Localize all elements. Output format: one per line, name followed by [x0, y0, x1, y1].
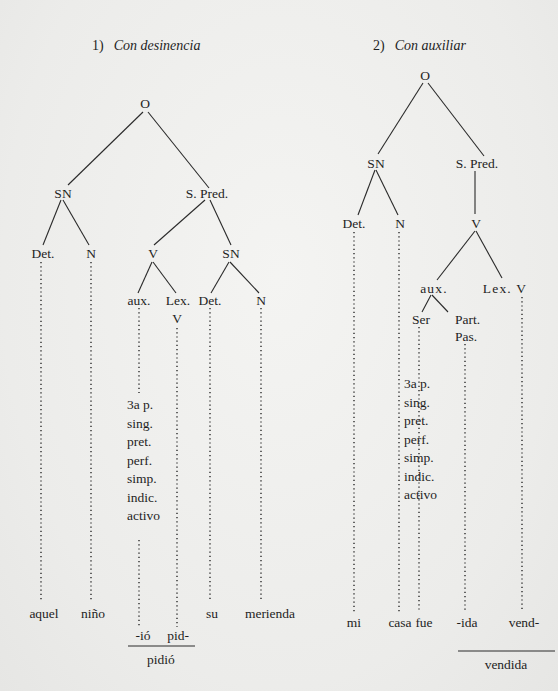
- diagram-page: 1)Con desinencia O SN S. Pred. Det. N V …: [0, 0, 558, 691]
- feature-form: simp.: [127, 470, 160, 489]
- tree1-node-lex-v: V: [172, 312, 182, 326]
- tree2-node-part: Part.: [455, 313, 480, 327]
- feature-mood: indic.: [127, 489, 160, 508]
- tree2-terminal-n: casa: [388, 616, 411, 630]
- feature-person: 3a p.: [404, 375, 437, 394]
- feature-number: sing.: [127, 415, 160, 434]
- tree2-node-sn: SN: [367, 157, 384, 171]
- feature-aspect: perf.: [127, 452, 160, 471]
- tree2-node-pas: Pas.: [455, 330, 477, 344]
- feature-tense: pret.: [404, 412, 437, 431]
- tree1-terminal-n2: merienda: [245, 607, 295, 621]
- tree1-node-lex: Lex.: [166, 294, 190, 308]
- tree1-node-aux: aux.: [128, 294, 151, 308]
- tree2-title-text: Con auxiliar: [395, 38, 466, 53]
- tree2-node-aux: aux.: [420, 282, 448, 296]
- tree2-number: 2): [373, 38, 385, 53]
- tree2-node-n: N: [395, 217, 405, 231]
- tree2-terminal-suffix: -ida: [457, 616, 478, 630]
- tree2-terminal-combined: vendida: [485, 658, 528, 672]
- tree2-node-lex-v: Lex. V: [483, 282, 527, 296]
- feature-form: simp.: [404, 449, 437, 468]
- tree1-number: 1): [92, 38, 104, 53]
- tree1-title-text: Con desinencia: [114, 38, 201, 53]
- tree1-node-v: V: [148, 247, 158, 261]
- tree1-features: 3a p. sing. pret. perf. simp. indic. act…: [127, 396, 160, 526]
- tree1-node-root: O: [140, 97, 150, 111]
- tree1-terminal-stem: pid-: [167, 629, 189, 643]
- feature-person: 3a p.: [127, 396, 160, 415]
- tree1-terminal-det2: su: [206, 607, 218, 621]
- feature-voice: activo: [404, 486, 437, 505]
- tree2-node-det: Det.: [343, 217, 366, 231]
- feature-mood: indic.: [404, 468, 437, 487]
- feature-tense: pret.: [127, 433, 160, 452]
- tree1-terminal-det: aquel: [29, 607, 58, 621]
- tree2-node-ser: Ser: [412, 313, 430, 327]
- tree1-node-n: N: [86, 247, 96, 261]
- tree-edges: [0, 0, 558, 691]
- tree1-terminal-combined: pidió: [147, 653, 175, 667]
- feature-number: sing.: [404, 394, 437, 413]
- feature-voice: activo: [127, 507, 160, 526]
- tree2-node-root: O: [420, 69, 430, 83]
- tree2-terminal-stem: vend-: [509, 616, 540, 630]
- tree2-features: 3a p. sing. pret. perf. simp. indic. act…: [404, 375, 437, 505]
- tree1-title: 1)Con desinencia: [92, 38, 200, 54]
- feature-aspect: perf.: [404, 431, 437, 450]
- tree1-node-det2: Det.: [199, 294, 222, 308]
- tree2-terminal-ser: fue: [415, 616, 432, 630]
- tree2-node-v: V: [471, 217, 481, 231]
- tree1-terminal-suffix: -ió: [136, 629, 151, 643]
- tree2-terminal-det: mi: [347, 616, 361, 630]
- tree2-node-spred: S. Pred.: [456, 157, 498, 171]
- tree1-branches: [43, 112, 259, 293]
- tree1-node-sn2: SN: [222, 247, 239, 261]
- tree2-branches: [358, 83, 502, 312]
- tree1-node-n2: N: [256, 294, 266, 308]
- tree1-node-sn: SN: [54, 187, 71, 201]
- tree2-title: 2)Con auxiliar: [373, 38, 466, 54]
- tree1-node-spred: S. Pred.: [186, 187, 228, 201]
- tree1-terminal-n: niño: [81, 607, 105, 621]
- tree1-node-det: Det.: [32, 247, 55, 261]
